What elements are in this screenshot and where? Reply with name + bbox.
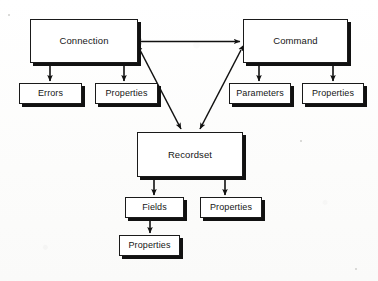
node-recordset-label: Recordset (168, 150, 212, 160)
node-command-properties-label: Properties (312, 89, 354, 98)
diagram-canvas: Connection Errors Properties Command Par… (0, 0, 378, 281)
node-fields-label: Fields (142, 203, 167, 212)
node-parameters[interactable]: Parameters (229, 83, 291, 104)
node-parameters-label: Parameters (236, 89, 284, 98)
node-fields-properties[interactable]: Properties (119, 235, 180, 256)
node-command-label: Command (273, 36, 318, 46)
node-fields-properties-label: Properties (128, 241, 170, 250)
node-recordset[interactable]: Recordset (137, 132, 243, 177)
scan-speck (355, 268, 357, 270)
node-errors[interactable]: Errors (19, 83, 82, 104)
node-recordset-properties-label: Properties (210, 203, 252, 212)
scan-speck (300, 140, 302, 142)
node-errors-label: Errors (38, 89, 63, 98)
node-command-properties[interactable]: Properties (302, 83, 364, 104)
node-connection-properties[interactable]: Properties (95, 83, 158, 104)
node-fields[interactable]: Fields (125, 197, 184, 218)
scan-speck (8, 14, 10, 16)
node-recordset-properties[interactable]: Properties (200, 197, 262, 218)
node-connection-properties-label: Properties (105, 89, 147, 98)
node-command[interactable]: Command (243, 19, 348, 63)
node-connection[interactable]: Connection (30, 19, 138, 63)
node-connection-label: Connection (59, 36, 108, 46)
